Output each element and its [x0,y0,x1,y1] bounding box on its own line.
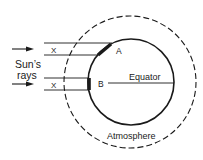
x-label-top: X [51,46,57,55]
atmosphere-boundary [64,16,196,148]
point-a-label: A [116,46,122,56]
earth-sun-rays-diagram: Sun’s rays X X A B Equator Atmosphere [0,0,203,160]
surface-area-a [98,44,111,55]
equator-label: Equator [129,72,161,82]
sun-ray-arrow-bottom [12,82,34,87]
x-label-bottom: X [51,81,57,90]
sun-ray-arrow-top [12,47,34,52]
atmosphere-label: Atmosphere [107,131,156,141]
suns-rays-label-line2: rays [17,69,37,81]
point-b-label: B [98,79,104,89]
